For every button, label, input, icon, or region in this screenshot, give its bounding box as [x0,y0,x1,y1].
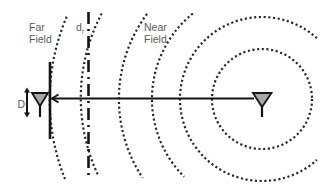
wavefront-4 [119,14,147,178]
dr-label-subscript: r [82,28,85,35]
antenna-triangle [253,93,272,107]
far-field-label-line1: Far [29,21,45,33]
antenna-triangle [32,93,48,106]
near-far-field-diagram: Far Field Near Field d r D [0,0,334,188]
far-field-label-line2: Field [29,33,52,45]
receiver-antenna-icon [32,93,48,117]
aperture-size-label: D [18,98,26,110]
near-field-label-line2: Field [144,33,167,45]
arrow-up-head-icon [24,88,30,93]
wavefront-5 [81,14,102,176]
near-field-label-line1: Near [144,21,167,33]
arrow-down-head-icon [24,113,30,118]
transmitter-antenna-icon [253,93,272,117]
